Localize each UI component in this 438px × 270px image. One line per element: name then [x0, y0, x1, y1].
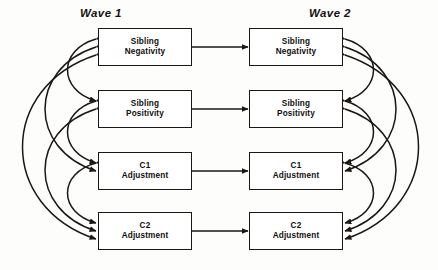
node-label: Sibling Negativity [276, 37, 317, 58]
node-label: C1 Adjustment [273, 161, 320, 182]
cross-lagged-panel-diagram: Wave 1 Wave 2 Sibling NegativitySibling … [0, 0, 438, 270]
node-label: C1 Adjustment [122, 161, 169, 182]
corr-c1-c2-wave1-left [68, 163, 97, 223]
wave-2-label: Wave 2 [309, 7, 351, 19]
node-w2-c2-adjustment: C2 Adjustment [249, 212, 343, 250]
node-w2-c1-adjustment: C1 Adjustment [249, 152, 343, 190]
node-w2-sibling-negativity: Sibling Negativity [249, 28, 343, 66]
correlation-arc-group [23, 39, 419, 239]
node-label: Sibling Negativity [125, 37, 166, 58]
node-w1-sibling-negativity: Sibling Negativity [98, 28, 192, 66]
node-label: Sibling Positivity [126, 99, 164, 120]
diagram-connectors-layer [0, 0, 438, 270]
corr-pos-c2-wave2-right [345, 109, 396, 231]
node-w1-c2-adjustment: C2 Adjustment [98, 212, 192, 250]
node-w1-c1-adjustment: C1 Adjustment [98, 152, 192, 190]
node-label: C2 Adjustment [273, 221, 320, 242]
node-w2-sibling-positivity: Sibling Positivity [249, 90, 343, 128]
node-label: Sibling Positivity [277, 99, 315, 120]
corr-pos-c2-wave1-left [45, 109, 96, 231]
node-w1-sibling-positivity: Sibling Positivity [98, 90, 192, 128]
stability-arrow-group [192, 47, 248, 231]
corr-c1-c2-wave2-right [345, 163, 374, 223]
node-label: C2 Adjustment [122, 221, 169, 242]
wave-1-label: Wave 1 [80, 7, 122, 19]
